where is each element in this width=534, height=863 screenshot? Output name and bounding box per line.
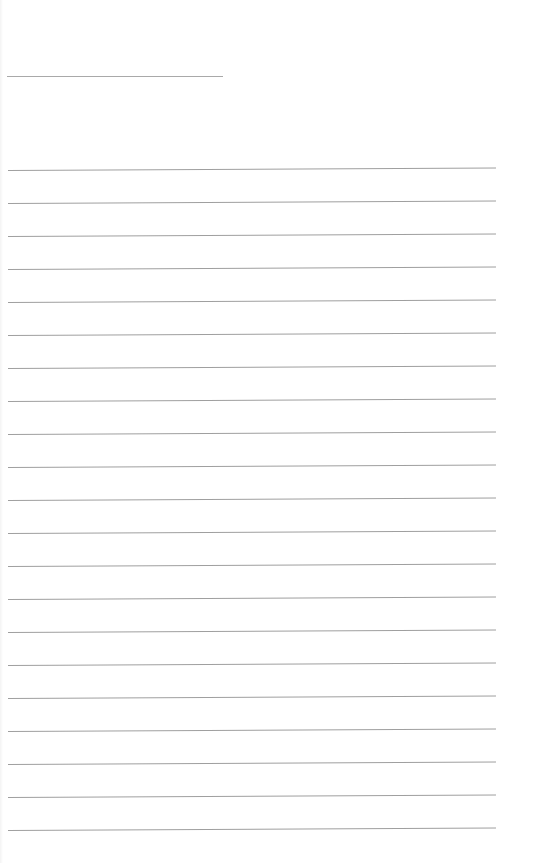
ruled-line xyxy=(8,431,496,435)
ruled-line xyxy=(8,332,496,336)
ruled-line xyxy=(8,563,496,567)
ruled-line xyxy=(8,266,496,270)
lined-paper-page xyxy=(0,0,534,863)
ruled-line xyxy=(8,728,496,732)
ruled-line xyxy=(8,827,496,831)
ruled-line xyxy=(8,299,496,303)
ruled-line xyxy=(8,794,496,798)
ruled-line xyxy=(8,662,496,666)
ruled-line xyxy=(8,464,496,468)
ruled-lines xyxy=(0,0,534,863)
ruled-line xyxy=(8,167,496,171)
ruled-line xyxy=(8,233,496,237)
ruled-line xyxy=(8,200,496,204)
ruled-line xyxy=(8,596,496,600)
ruled-line xyxy=(8,365,496,369)
ruled-line xyxy=(8,695,496,699)
ruled-line xyxy=(8,398,496,402)
ruled-line xyxy=(8,761,496,765)
ruled-line xyxy=(8,530,496,534)
ruled-line xyxy=(8,497,496,501)
ruled-line xyxy=(8,629,496,633)
